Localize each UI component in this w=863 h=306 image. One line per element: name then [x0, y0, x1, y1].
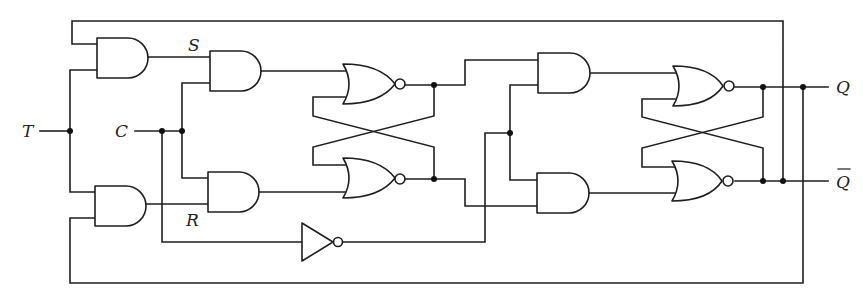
t-bus-wire: [70, 70, 97, 192]
c-to-master-and-wire: [182, 83, 210, 178]
master-q-out-wire: [405, 60, 538, 85]
junction-dot-c-inverter: [159, 128, 165, 134]
nor-gate-master-upper: [343, 64, 405, 104]
and-gate-master-s: [210, 51, 261, 91]
junction-dot-master-qbar: [431, 176, 437, 182]
junction-dot-c-master: [179, 128, 185, 134]
nor-gate-slave-upper: [673, 66, 734, 106]
label-qbar-output: Q: [836, 172, 850, 192]
junction-dot-slave-q: [760, 84, 766, 90]
label-r: R: [185, 210, 199, 230]
junction-dot-master-q: [431, 82, 437, 88]
junction-dot-q-feedback: [800, 84, 806, 90]
label-c-input: C: [115, 121, 128, 141]
and-gate-t-lower: [95, 186, 146, 226]
label-q-output: Q: [836, 77, 850, 97]
and-gate-slave-lower: [537, 173, 589, 213]
and-gate-master-r: [208, 172, 259, 212]
and-gate-slave-upper: [538, 53, 590, 93]
junction-dot-qbar-feedback: [780, 178, 786, 184]
circuit-diagram: T C S R Q Q: [0, 0, 863, 306]
and-gate-t-upper: [97, 38, 148, 78]
nor-gate-master-lower: [343, 158, 405, 198]
nor-gate-slave-lower: [672, 161, 733, 201]
label-s: S: [188, 35, 200, 55]
master-qbar-out-wire: [405, 179, 537, 206]
junction-dot-slave-qbar: [760, 178, 766, 184]
label-t-input: T: [22, 121, 35, 141]
junction-dot-t: [67, 128, 73, 134]
slave-clock-wire: [510, 85, 538, 180]
inverter-gate: [302, 223, 343, 261]
junction-dot-slave-clock: [507, 130, 513, 136]
